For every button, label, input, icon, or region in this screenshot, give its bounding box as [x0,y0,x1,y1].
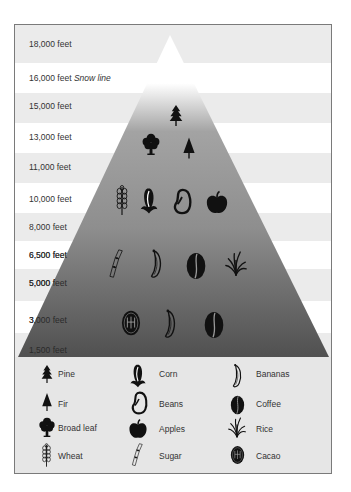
legend-label-fir: Fir [58,399,68,409]
legend-fir-icon [41,393,53,411]
legend-label-pine: Pine [58,369,75,379]
legend-rice-icon [228,416,246,438]
beans-icon [172,188,192,215]
band-label-overlay: 1,500 feet [29,345,67,355]
legend-coffee-icon [230,395,245,415]
legend-label-apples: Apples [159,424,185,434]
wheat-icon [115,185,129,215]
legend-label-sugar: Sugar [159,451,182,461]
legend-label-beans: Beans [159,399,183,409]
bananas-icon [163,307,177,341]
band-label-overlay: 5,000 feet [29,278,67,288]
altitude-diagram-frame: 18,000 feet 16,000 feet Snow line 15,000… [14,24,332,474]
legend-label-broad-leaf: Broad leaf [58,423,97,433]
coffee-icon [203,311,225,339]
band-label-overlay: 6,500 feet [29,250,67,260]
corn-icon [139,186,159,216]
legend-label-cacao: Cacao [256,451,281,461]
legend-apples-icon [128,419,148,439]
legend-label-coffee: Coffee [256,399,281,409]
cacao-icon [121,309,141,337]
legend-cacao-icon [230,445,245,465]
legend-label-rice: Rice [256,424,273,434]
legend-label-corn: Corn [159,369,177,379]
bananas-icon [149,247,163,281]
rice-icon [225,250,247,276]
band-label-overlay: 3,000 feet [29,315,67,325]
sugar-icon [109,249,125,279]
broad-leaf-icon [142,133,160,155]
legend-broad-leaf-icon [39,417,55,437]
legend-label-wheat: Wheat [58,451,83,461]
apples-icon [206,190,228,215]
legend: Pine Fir Broad leaf Wheat Corn Beans App… [15,357,331,474]
fir-icon [182,137,196,159]
legend-beans-icon [130,391,148,415]
coffee-icon [185,252,207,280]
legend-bananas-icon [231,363,243,389]
legend-pine-icon [41,365,53,383]
pine-icon [169,105,183,126]
legend-sugar-icon [131,443,145,467]
legend-wheat-icon [41,443,52,467]
legend-corn-icon [129,363,147,389]
legend-label-bananas: Bananas [256,369,290,379]
